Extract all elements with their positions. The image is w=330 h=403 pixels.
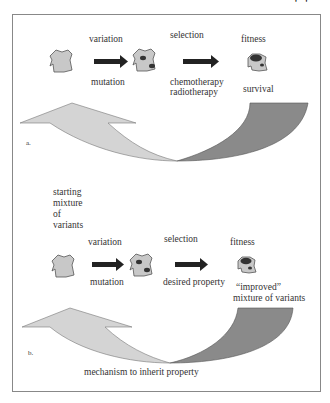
panel-a-start-cell-icon: [50, 50, 72, 72]
panel-a-tag: a.: [26, 138, 31, 148]
diagram-artwork: [0, 0, 330, 403]
panel-b-arrow-2-icon: [175, 258, 208, 271]
panel-a-survival-label: survival: [243, 84, 274, 94]
panel-a-arrow-1-icon: [94, 55, 128, 68]
panel-a-selection-label: selection: [170, 30, 204, 40]
panel-b-fit-cell-icon: [238, 257, 256, 273]
panel-b-start-label-line-1: starting: [53, 187, 82, 197]
panel-a-fitness-label: fitness: [241, 34, 266, 44]
panel-a-chemotherapy-label: chemotherapy: [170, 77, 224, 87]
panel-b-mechanism-label: mechanism to inherit property: [84, 367, 199, 377]
panel-b-mutated-cell-icon: [130, 254, 152, 276]
panel-b-mixture-of-variants-label: mixture of variants: [233, 293, 305, 303]
panel-a-mutated-cell-icon: [133, 49, 155, 71]
panel-a-radiotherapy-label: radiotherapy: [170, 87, 218, 97]
panel-b-improved-label: “improved”: [236, 282, 281, 292]
panel-b-variation-label: variation: [88, 237, 122, 247]
panel-b-desired-property-label: desired property: [163, 277, 225, 287]
panel-b-start-label-line-4: variants: [53, 220, 83, 230]
panel-a-arrow-2-icon: [183, 55, 219, 68]
panel-a-fit-cell-icon: [248, 54, 267, 71]
panel-b-start-label-line-3: of: [53, 209, 61, 219]
panel-b-start-label-line-2: mixture: [53, 198, 83, 208]
panel-b-fitness-label: fitness: [230, 237, 255, 247]
panel-b-arrow-1-icon: [92, 258, 124, 271]
panel-b-selection-label: selection: [164, 234, 198, 244]
panel-b-tag: b.: [28, 348, 33, 358]
panel-a-mutation-label: mutation: [91, 77, 125, 87]
panel-b-mutation-label: mutation: [90, 277, 124, 287]
panel-a-feedback-loop-arrow-icon: [20, 103, 308, 161]
panel-b-start-cell-icon: [52, 255, 74, 277]
panel-a-variation-label: variation: [89, 34, 123, 44]
panel-b-feedback-loop-arrow-icon: [22, 308, 293, 363]
